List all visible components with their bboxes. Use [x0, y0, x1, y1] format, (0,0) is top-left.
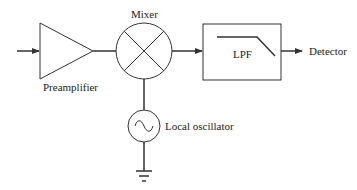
local-oscillator-label: Local oscillator: [165, 120, 234, 132]
sine-source-icon: [128, 110, 160, 142]
mixer-label: Mixer: [131, 8, 158, 20]
mixer-icon: [116, 23, 172, 79]
lpf-label: LPF: [233, 48, 252, 60]
ground-icon: [136, 171, 152, 181]
block-diagram: Preamplifier Mixer LPF Detector Local os…: [0, 0, 357, 190]
preamplifier-block: [40, 23, 93, 79]
detector-label: Detector: [309, 45, 347, 57]
preamplifier-label: Preamplifier: [43, 81, 98, 93]
